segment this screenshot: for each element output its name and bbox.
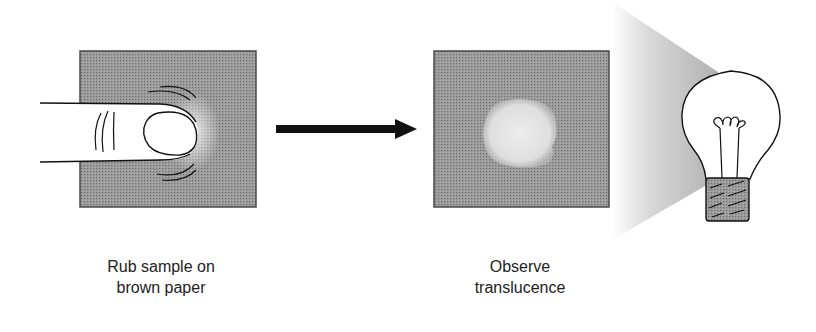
step-1-caption-line-2: brown paper	[61, 277, 261, 298]
step-1-caption: Rub sample on brown paper	[61, 256, 261, 298]
finger-rubbing-paper-icon	[40, 51, 256, 207]
right-arrow-icon	[276, 119, 417, 139]
step-2-caption-line-2: translucence	[420, 277, 620, 298]
light-bulb-icon	[682, 71, 780, 221]
step-2-caption: Observe translucence	[420, 256, 620, 298]
bulb-base	[706, 178, 749, 221]
step-1-caption-line-1: Rub sample on	[61, 256, 261, 277]
fingernail	[144, 112, 197, 155]
translucent-spot-paper-icon	[434, 51, 609, 207]
translucent-spot	[483, 99, 557, 168]
step-2-caption-line-1: Observe	[420, 256, 620, 277]
test-diagram: Rub sample on brown paper Observe transl…	[0, 0, 816, 332]
